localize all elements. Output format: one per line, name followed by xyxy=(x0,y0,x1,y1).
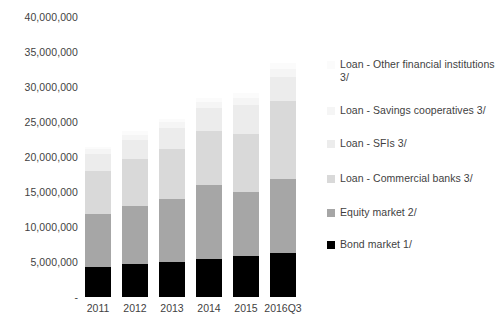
y-axis-tick-label: 15,000,000 xyxy=(24,186,78,198)
legend-item-label: Loan - SFIs 3/ xyxy=(340,137,407,150)
bar-segment[interactable] xyxy=(159,262,185,297)
bar-stack xyxy=(159,119,185,297)
y-axis-tick-label: - xyxy=(74,291,78,303)
legend-item[interactable]: Loan - Other financial institutions 3/ xyxy=(327,58,498,84)
bar-segment[interactable] xyxy=(233,192,259,256)
bar-segment[interactable] xyxy=(233,98,259,105)
bar-segment[interactable] xyxy=(85,154,111,172)
legend-swatch-icon xyxy=(327,107,335,115)
bar-segment[interactable] xyxy=(85,171,111,214)
y-axis-tick-label: 30,000,000 xyxy=(24,81,78,93)
bar-stack xyxy=(85,147,111,297)
x-axis-category-label: 2011 xyxy=(87,302,110,314)
bar-segment[interactable] xyxy=(159,199,185,262)
x-axis-category-label: 2012 xyxy=(123,302,146,314)
bar-segment[interactable] xyxy=(196,108,222,131)
legend-swatch-icon xyxy=(327,175,335,183)
legend-item-label: Loan - Other financial institutions 3/ xyxy=(340,58,498,84)
y-axis-tick-label: 35,000,000 xyxy=(24,46,78,58)
bar-segment[interactable] xyxy=(159,149,185,199)
bar-segment[interactable] xyxy=(196,185,222,259)
y-axis-tick-label: 40,000,000 xyxy=(24,11,78,23)
legend-item-label: Equity market 2/ xyxy=(340,206,417,219)
legend-item[interactable]: Equity market 2/ xyxy=(327,206,498,219)
bar-segment[interactable] xyxy=(122,206,148,264)
bar-segment[interactable] xyxy=(233,134,259,192)
bar-segment[interactable] xyxy=(233,256,259,297)
bar-stack xyxy=(270,63,296,297)
bar-stack xyxy=(233,93,259,297)
y-axis: 40,000,00035,000,00030,000,00025,000,000… xyxy=(0,0,84,332)
plot-area: 201120122013201420152016Q3 xyxy=(84,0,316,332)
bar-stack xyxy=(196,98,222,297)
bar-segment[interactable] xyxy=(270,101,296,179)
bar-stack xyxy=(122,131,148,297)
bar-segment[interactable] xyxy=(270,253,296,297)
x-axis-category-label: 2016Q3 xyxy=(264,302,301,314)
bar-segment[interactable] xyxy=(122,140,148,160)
x-axis-category-label: 2013 xyxy=(160,302,183,314)
bar-segment[interactable] xyxy=(85,267,111,297)
bar-segment[interactable] xyxy=(122,159,148,206)
legend-item-label: Loan - Savings cooperatives 3/ xyxy=(340,104,486,117)
y-axis-tick-label: 20,000,000 xyxy=(24,151,78,163)
legend-item[interactable]: Loan - SFIs 3/ xyxy=(327,137,498,150)
bar-segment[interactable] xyxy=(122,264,148,297)
bar-segment[interactable] xyxy=(270,77,296,102)
y-axis-tick-label: 5,000,000 xyxy=(30,256,78,268)
x-axis-category-label: 2015 xyxy=(234,302,257,314)
legend-item[interactable]: Loan - Savings cooperatives 3/ xyxy=(327,104,498,117)
stacked-bar-chart: 40,000,00035,000,00030,000,00025,000,000… xyxy=(0,0,498,332)
legend-swatch-icon xyxy=(327,241,335,249)
bar-segment[interactable] xyxy=(270,69,296,77)
y-axis-tick-label: 25,000,000 xyxy=(24,116,78,128)
bar-segment[interactable] xyxy=(233,105,259,134)
legend-item[interactable]: Bond market 1/ xyxy=(327,238,498,251)
bar-segment[interactable] xyxy=(196,259,222,297)
legend-item[interactable]: Loan - Commercial banks 3/ xyxy=(327,172,498,185)
bar-segment[interactable] xyxy=(196,131,222,185)
legend-swatch-icon xyxy=(327,209,335,217)
x-axis-category-label: 2014 xyxy=(197,302,220,314)
y-axis-tick-label: 10,000,000 xyxy=(24,221,78,233)
legend-item-label: Bond market 1/ xyxy=(340,238,412,251)
legend-item-label: Loan - Commercial banks 3/ xyxy=(340,172,473,185)
bar-segment[interactable] xyxy=(270,179,296,253)
legend-swatch-icon xyxy=(327,140,335,148)
legend-swatch-icon xyxy=(327,61,335,69)
bar-segment[interactable] xyxy=(85,214,111,267)
bar-segment[interactable] xyxy=(159,128,185,149)
